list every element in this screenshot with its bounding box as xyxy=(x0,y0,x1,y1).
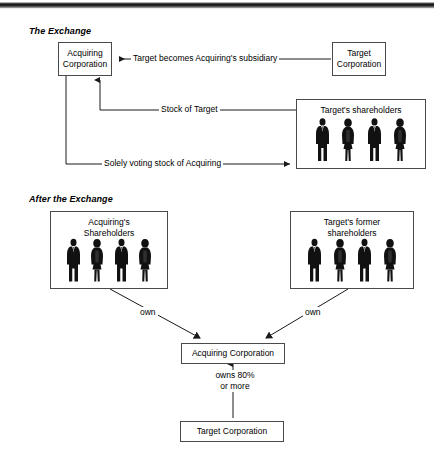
group-title-targets-shareholders: Target's shareholders xyxy=(297,105,425,116)
person-man-icon xyxy=(306,238,323,283)
edge-label-own-left: own xyxy=(138,307,158,318)
node-label-line2: Corporation xyxy=(63,59,107,70)
node-label-line2: Corporation xyxy=(337,59,381,70)
edge-solely-voting-stock xyxy=(66,76,290,164)
node-target-corporation-top[interactable]: Target Corporation xyxy=(332,42,386,76)
page-edge-artifact xyxy=(0,2,434,9)
person-woman-icon xyxy=(340,118,356,162)
person-man-icon xyxy=(366,118,383,162)
person-man-icon xyxy=(314,118,331,162)
person-man-icon xyxy=(356,238,373,283)
node-label-line1: Acquiring xyxy=(67,48,102,59)
person-woman-icon xyxy=(382,238,398,283)
person-woman-icon xyxy=(332,238,348,283)
edge-label-owns-80-percent-line1: owns 80% xyxy=(201,370,269,381)
edge-label-solely-voting-stock: Solely voting stock of Acquiring xyxy=(102,158,223,169)
people-row-acquirings-shareholders xyxy=(51,238,167,283)
edge-label-subsidiary: Target becomes Acquiring's subsidiary xyxy=(131,53,279,64)
node-label: Acquiring Corporation xyxy=(192,348,274,359)
people-row-targets-former-shareholders xyxy=(291,238,413,283)
group-title-acquirings-shareholders-line1: Acquiring's xyxy=(51,217,167,228)
person-man-icon xyxy=(65,238,82,283)
edge-label-stock-of-target: Stock of Target xyxy=(159,104,220,115)
node-label: Target Corporation xyxy=(197,426,267,437)
node-acquiring-corporation-top[interactable]: Acquiring Corporation xyxy=(58,42,112,76)
section-title-after-exchange: After the Exchange xyxy=(29,194,113,204)
node-label-line1: Target xyxy=(347,48,371,59)
group-targets-shareholders[interactable]: Target's shareholders xyxy=(296,99,426,169)
edge-label-owns-80-percent-line2: or more xyxy=(201,381,269,392)
person-woman-icon xyxy=(392,118,408,162)
people-row-targets-shareholders xyxy=(297,118,425,162)
group-targets-former-shareholders[interactable]: Target's former shareholders xyxy=(290,211,414,289)
group-acquirings-shareholders[interactable]: Acquiring's Shareholders xyxy=(50,211,168,289)
diagram-canvas: The Exchange Acquiring Corporation Targe… xyxy=(0,0,434,470)
edge-label-own-right: own xyxy=(303,307,323,318)
node-acquiring-corporation-bottom[interactable]: Acquiring Corporation xyxy=(181,343,285,364)
person-woman-icon xyxy=(89,238,105,283)
person-man-icon xyxy=(113,238,130,283)
node-target-corporation-bottom[interactable]: Target Corporation xyxy=(180,421,284,442)
group-title-targets-former-shareholders-line1: Target's former xyxy=(291,217,413,228)
person-woman-icon xyxy=(137,238,153,283)
section-title-exchange: The Exchange xyxy=(29,26,91,36)
